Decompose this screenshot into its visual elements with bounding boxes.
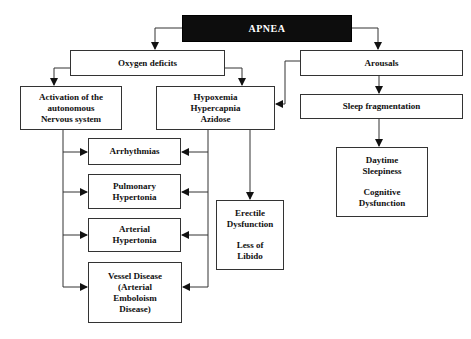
line: Emboloism <box>113 293 157 304</box>
node-oxygen-deficits-label: Oxygen deficits <box>118 58 177 69</box>
node-arrhythmias-label: Arrhythmias <box>110 146 160 157</box>
line: Hypertonia <box>113 192 157 203</box>
line: (Arterial <box>118 282 152 293</box>
line: Hypercapnia <box>191 103 241 114</box>
node-arousals-label: Arousals <box>365 58 399 69</box>
line: Libido <box>237 251 263 262</box>
line: Cognitive <box>364 187 401 198</box>
line: Pulmonary <box>113 181 156 192</box>
line: autonomous <box>47 103 94 114</box>
node-hypoxemia: Hypoxemia Hypercapnia Azidose <box>156 86 275 130</box>
line: Hypoxemia <box>194 92 238 103</box>
node-sleep-fragmentation-label: Sleep fragmentation <box>343 101 421 112</box>
node-pulmonary-hypertonia: Pulmonary Hypertonia <box>88 174 181 209</box>
line: Disease) <box>119 304 151 315</box>
node-arrhythmias: Arrhythmias <box>88 138 181 165</box>
node-oxygen-deficits: Oxygen deficits <box>70 50 225 76</box>
node-activation-autonomous-nervous-system: Activation of the autonomous Nervous sys… <box>20 86 122 130</box>
node-daytime-sleepiness: Daytime Sleepiness Cognitive Dysfunction <box>336 147 428 217</box>
line: Sleepiness <box>362 166 401 177</box>
line: Erectile <box>235 208 265 219</box>
node-erectile-dysfunction: Erectile Dysfunction Less of Libido <box>216 200 284 270</box>
node-apnea: APNEA <box>182 15 352 42</box>
node-arousals: Arousals <box>300 50 463 76</box>
node-arterial-hypertonia: Arterial Hypertonia <box>88 218 181 252</box>
line: Dysfunction <box>227 219 274 230</box>
line: Activation of the <box>39 92 103 103</box>
line: Less of <box>237 240 264 251</box>
line: Hypertonia <box>113 235 157 246</box>
line: Vessel Disease <box>108 271 162 282</box>
line: Dysfunction <box>359 198 406 209</box>
line: Arterial <box>119 224 150 235</box>
line: Daytime <box>366 155 399 166</box>
node-apnea-label: APNEA <box>249 23 286 34</box>
node-vessel-disease: Vessel Disease (Arterial Emboloism Disea… <box>88 262 182 323</box>
node-sleep-fragmentation: Sleep fragmentation <box>300 94 463 119</box>
line: Azidose <box>201 114 231 125</box>
line: Nervous system <box>41 114 101 125</box>
